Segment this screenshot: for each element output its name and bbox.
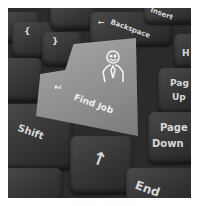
key-bottom-left	[8, 168, 62, 198]
page-up-label-2: Up	[172, 92, 186, 102]
key-insert: Insert	[144, 8, 191, 24]
key-left-mid	[8, 58, 42, 102]
page-down-label-2: Down	[152, 138, 184, 149]
key-up-arrow: ↑	[70, 136, 132, 194]
key-page-down: Page Down	[148, 112, 191, 164]
home-label: H	[182, 48, 190, 58]
page-up-label-1: Pag	[170, 78, 189, 88]
key-home: H	[174, 34, 191, 68]
up-arrow-icon: ↑	[89, 146, 110, 171]
backspace-arrow-icon: ←	[98, 18, 105, 27]
shift-label: Shift	[16, 122, 45, 142]
end-label: End	[133, 178, 162, 198]
insert-label: Insert	[149, 8, 174, 21]
watermark-text: · · · · · · · · · · · · · · · ·	[70, 198, 180, 204]
page-down-label-1: Page	[160, 122, 188, 133]
person-icon	[97, 48, 127, 86]
key-end: End	[126, 168, 191, 198]
key-page-up: Pag Up	[158, 68, 191, 114]
